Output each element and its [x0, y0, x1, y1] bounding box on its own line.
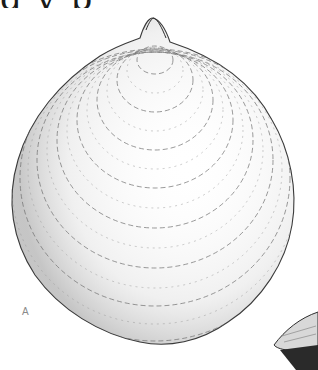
second-shell-fragment — [274, 312, 318, 370]
illustration-canvas: g y p — [0, 0, 318, 370]
shell-drawing — [0, 0, 318, 370]
shell-body — [5, 18, 305, 344]
plate-label: A — [22, 306, 29, 317]
